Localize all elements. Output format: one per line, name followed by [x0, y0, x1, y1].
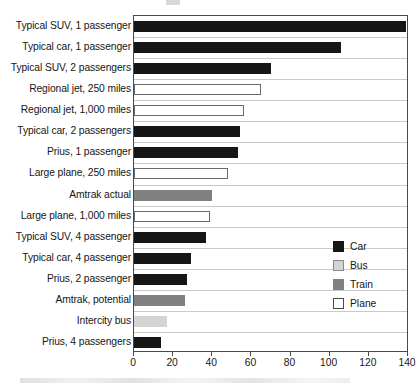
bar: [134, 168, 228, 179]
bar: [134, 253, 191, 264]
legend-swatch-car-icon: [333, 241, 344, 252]
bar: [134, 63, 271, 74]
legend-swatch-bus-icon: [333, 260, 344, 271]
bar-row: [134, 163, 407, 184]
x-tick-label: 0: [113, 357, 153, 369]
category-label: Prius, 4 passengers: [0, 336, 131, 347]
top-crop-artifact: [166, 0, 180, 5]
bar-row: [134, 142, 407, 163]
x-tick-label: 120: [348, 357, 388, 369]
bar: [134, 337, 161, 348]
category-label: Typical car, 4 passenger: [0, 252, 131, 263]
category-label: Typical car, 2 passengers: [0, 125, 131, 136]
bar: [134, 84, 261, 95]
x-tick-label: 100: [309, 357, 349, 369]
category-label: Regional jet, 250 miles: [0, 83, 131, 94]
category-label: Typical SUV, 4 passenger: [0, 231, 131, 242]
category-label: Typical SUV, 1 passenger: [0, 20, 131, 31]
category-label: Regional jet, 1,000 miles: [0, 104, 131, 115]
x-tick-mark: [211, 352, 212, 356]
bar-chart-figure: Typical SUV, 1 passengerTypical car, 1 p…: [0, 0, 419, 386]
bar: [134, 316, 167, 327]
category-label: Large plane, 1,000 miles: [0, 210, 131, 221]
bar: [134, 232, 206, 243]
category-label: Typical car, 1 passenger: [0, 41, 131, 52]
x-tick-mark: [407, 352, 408, 356]
x-tick-label: 140: [387, 357, 419, 369]
bar: [134, 21, 406, 32]
bar: [134, 105, 244, 116]
bar-row: [134, 79, 407, 100]
category-axis-labels: Typical SUV, 1 passengerTypical car, 1 p…: [0, 15, 131, 352]
legend-label: Bus: [350, 260, 368, 272]
x-tick-mark: [290, 352, 291, 356]
category-label: Prius, 1 passenger: [0, 146, 131, 157]
category-label: Amtrak actual: [0, 189, 131, 200]
x-tick-label: 80: [270, 357, 310, 369]
x-tick-label: 40: [191, 357, 231, 369]
x-axis: 020406080100120140: [133, 352, 408, 378]
category-label: Large plane, 250 miles: [0, 167, 131, 178]
bar-row: [134, 37, 407, 58]
bar-row: [134, 185, 407, 206]
chart-legend: CarBusTrainPlane: [333, 238, 403, 314]
legend-swatch-plane-icon: [333, 298, 344, 309]
x-tick-label: 20: [152, 357, 192, 369]
bar-row: [134, 121, 407, 142]
category-label: Intercity bus: [0, 315, 131, 326]
x-tick-mark: [250, 352, 251, 356]
bar-row: [134, 311, 407, 332]
bar-row: [134, 206, 407, 227]
bar: [134, 190, 212, 201]
legend-item-bus: Bus: [333, 257, 403, 274]
category-label: Typical SUV, 2 passengers: [0, 62, 131, 73]
x-tick-mark: [368, 352, 369, 356]
bar: [134, 126, 240, 137]
bar-row: [134, 100, 407, 121]
legend-item-car: Car: [333, 238, 403, 255]
bar-row: [134, 58, 407, 79]
legend-label: Plane: [350, 298, 376, 310]
category-label: Amtrak, potential: [0, 294, 131, 305]
legend-label: Car: [350, 241, 367, 253]
category-label: Prius, 2 passenger: [0, 273, 131, 284]
legend-item-plane: Plane: [333, 295, 403, 312]
legend-item-train: Train: [333, 276, 403, 293]
bar: [134, 211, 210, 222]
bar-row: [134, 16, 407, 37]
bar: [134, 274, 187, 285]
legend-swatch-train-icon: [333, 279, 344, 290]
bar: [134, 42, 341, 53]
legend-label: Train: [350, 279, 373, 291]
x-tick-mark: [172, 352, 173, 356]
x-tick-mark: [329, 352, 330, 356]
x-tick-mark: [133, 352, 134, 356]
bar: [134, 147, 238, 158]
bar-row: [134, 332, 407, 353]
x-tick-label: 60: [230, 357, 270, 369]
bar: [134, 295, 185, 306]
bottom-crop-artifact: [20, 378, 350, 383]
